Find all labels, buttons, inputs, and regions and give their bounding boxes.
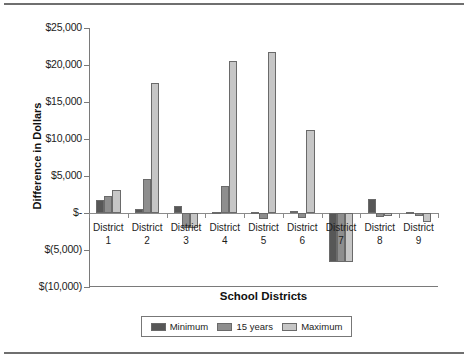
y-axis-tick [84, 176, 90, 177]
y-axis-line [89, 28, 90, 287]
x-axis-tick [438, 213, 439, 218]
y-axis-tick-label: $10,000 [0, 133, 82, 144]
bar-district-2-15-years [143, 179, 151, 213]
y-axis-tick-label: $20,000 [0, 59, 82, 70]
legend-label-minimum: Minimum [170, 321, 209, 332]
x-axis-tick [205, 213, 206, 218]
x-axis-tick [360, 213, 361, 218]
legend-label-15-years: 15 years [236, 321, 272, 332]
bar-district-9-maximum [423, 213, 431, 222]
bar-district-1-maximum [112, 190, 120, 213]
legend-item-maximum: Maximum [282, 321, 342, 332]
category-name: District [132, 222, 163, 233]
x-axis-category-label-9: District9 [395, 222, 442, 247]
y-axis-tick-label: $- [0, 207, 82, 218]
x-axis-tick [167, 213, 168, 218]
y-axis-tick [84, 250, 90, 251]
bar-district-5-minimum [251, 212, 259, 214]
legend-swatch-15-years-icon [217, 323, 232, 331]
bar-district-6-maximum [306, 130, 314, 213]
bar-district-1-15-years [104, 196, 112, 213]
category-number: 9 [395, 235, 442, 248]
bar-district-4-maximum [229, 61, 237, 213]
y-axis-tick-label: $5,000 [0, 170, 82, 181]
category-name: District [171, 222, 202, 233]
x-axis-tick [244, 213, 245, 218]
category-name: District [287, 222, 318, 233]
x-axis-title: School Districts [89, 290, 438, 302]
bar-district-1-minimum [96, 200, 104, 213]
bar-district-9-minimum [406, 212, 414, 214]
y-axis-tick [84, 139, 90, 140]
x-axis-tick [89, 213, 90, 218]
category-name: District [326, 222, 357, 233]
bar-district-8-15-years [376, 213, 384, 217]
chart-figure: Difference in Dollars $25,000$20,000$15,… [0, 0, 468, 364]
x-axis-tick [128, 213, 129, 218]
category-name: District [248, 222, 279, 233]
y-axis-tick-label: $(10,000) [0, 281, 82, 292]
y-axis-tick [84, 65, 90, 66]
bar-district-5-15-years [259, 213, 267, 219]
bar-district-5-maximum [268, 52, 276, 213]
y-axis-tick [84, 102, 90, 103]
bar-district-6-15-years [298, 213, 306, 218]
x-axis-tick [322, 213, 323, 218]
legend-swatch-minimum-icon [151, 323, 166, 331]
category-name: District [365, 222, 396, 233]
x-axis-tick [283, 213, 284, 218]
y-axis-tick-label: $15,000 [0, 96, 82, 107]
y-axis-tick-label: $(5,000) [0, 244, 82, 255]
legend-item-15-years: 15 years [217, 321, 272, 332]
y-axis-tick [84, 28, 90, 29]
bar-district-9-15-years [415, 213, 423, 216]
bar-district-4-minimum [212, 212, 220, 214]
bar-district-3-minimum [174, 206, 182, 213]
category-name: District [93, 222, 124, 233]
bar-district-2-maximum [151, 83, 159, 213]
legend-item-minimum: Minimum [151, 321, 209, 332]
bar-district-8-maximum [384, 213, 392, 216]
bar-district-2-minimum [135, 209, 143, 213]
y-axis-title: Difference in Dollars [31, 56, 43, 256]
category-name: District [209, 222, 240, 233]
bar-district-4-15-years [221, 186, 229, 213]
y-axis-tick [84, 287, 90, 288]
y-axis-tick-label: $25,000 [0, 22, 82, 33]
legend-label-maximum: Maximum [301, 321, 342, 332]
bar-district-8-minimum [368, 199, 376, 213]
legend-swatch-maximum-icon [282, 323, 297, 331]
x-axis-tick [399, 213, 400, 218]
plot-wrapper: Difference in Dollars $25,000$20,000$15,… [0, 0, 468, 364]
category-name: District [403, 222, 434, 233]
chart-legend: Minimum 15 years Maximum [141, 316, 352, 337]
bar-district-6-minimum [290, 211, 298, 213]
x-axis-bottom-line [89, 286, 438, 287]
